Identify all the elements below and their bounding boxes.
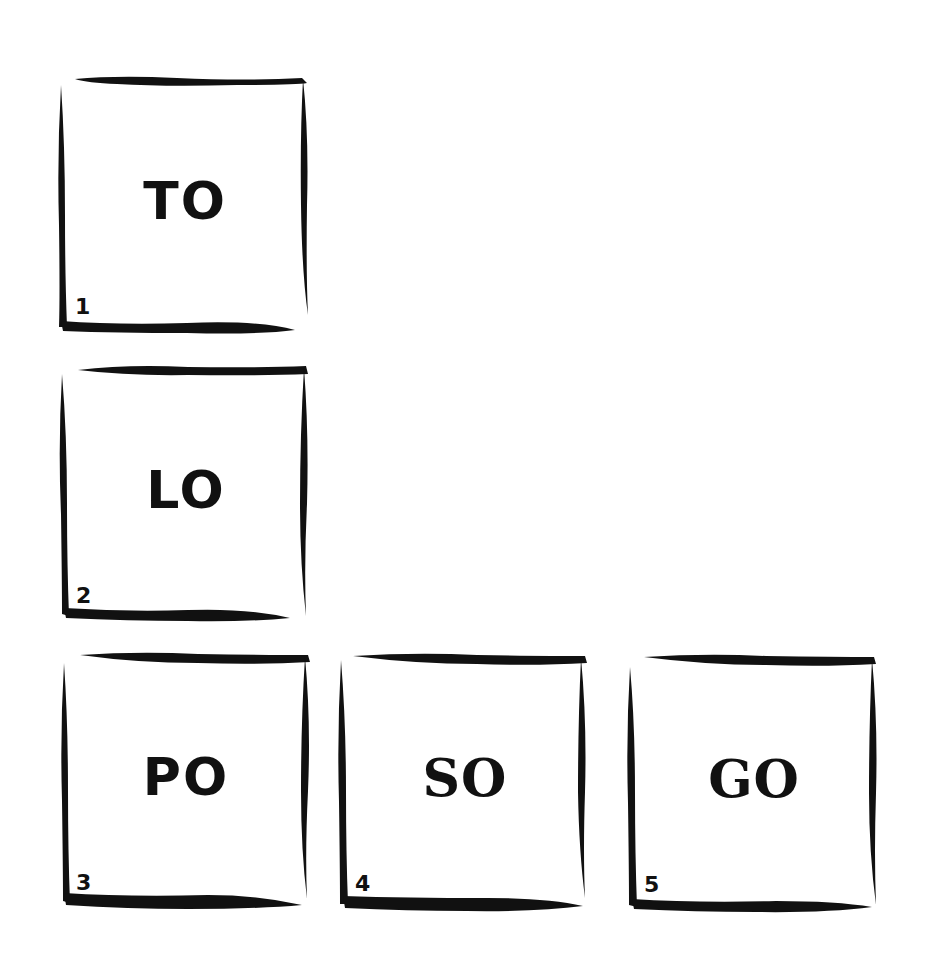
syllable-text: LO [58, 460, 314, 520]
syllable-box-3: PO 3 [58, 651, 314, 909]
box-number: 5 [644, 873, 659, 897]
syllable-box-4: SO 4 [337, 652, 593, 910]
syllable-text: SO [337, 748, 593, 808]
syllable-box-2: LO 2 [58, 364, 314, 622]
syllable-text: PO [58, 747, 314, 807]
syllable-text: TO [57, 171, 313, 231]
syllable-text: GO [626, 749, 882, 809]
box-number: 4 [355, 872, 370, 896]
syllable-box-5: GO 5 [626, 653, 882, 911]
syllable-box-1: TO 1 [57, 75, 313, 333]
box-number: 1 [75, 295, 90, 319]
box-number: 2 [76, 584, 91, 608]
box-number: 3 [76, 871, 91, 895]
